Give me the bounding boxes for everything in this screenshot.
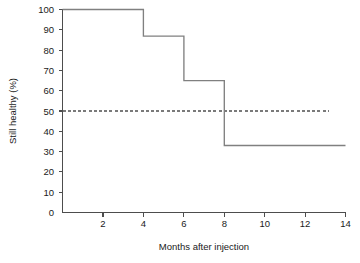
- x-tick-label-2: 2: [100, 218, 105, 229]
- x-tick-label-12: 12: [300, 218, 311, 229]
- y-tick-label-80: 80: [43, 45, 54, 56]
- y-axis-title: Still healthy (%): [7, 78, 18, 144]
- x-tick-label-10: 10: [259, 218, 270, 229]
- y-tick-label-70: 70: [43, 65, 54, 76]
- y-tick-label-60: 60: [43, 85, 54, 96]
- y-tick-label-30: 30: [43, 146, 54, 157]
- y-tick-labels: 100 90 80 70 60 50 40 30 20 10 0: [38, 4, 54, 218]
- survival-step-chart: 100 90 80 70 60 50 40 30 20 10 0 2 4 6: [0, 0, 360, 263]
- x-tick-label-8: 8: [222, 218, 227, 229]
- y-tick-label-10: 10: [43, 187, 54, 198]
- survival-step-curve: [63, 10, 346, 146]
- y-tick-label-90: 90: [43, 24, 54, 35]
- y-tick-label-100: 100: [38, 4, 54, 15]
- x-axis-title: Months after injection: [159, 241, 249, 252]
- y-tick-label-40: 40: [43, 126, 54, 137]
- y-tick-label-50: 50: [43, 106, 54, 117]
- x-tick-marks: [103, 213, 346, 217]
- x-tick-label-6: 6: [181, 218, 186, 229]
- x-tick-label-4: 4: [141, 218, 146, 229]
- x-tick-labels: 2 4 6 8 10 12 14: [100, 218, 350, 229]
- y-tick-label-20: 20: [43, 166, 54, 177]
- x-tick-label-14: 14: [340, 218, 351, 229]
- y-tick-label-0: 0: [49, 207, 54, 218]
- y-tick-marks: [59, 10, 63, 193]
- chart-screenshot: 100 90 80 70 60 50 40 30 20 10 0 2 4 6: [0, 0, 360, 263]
